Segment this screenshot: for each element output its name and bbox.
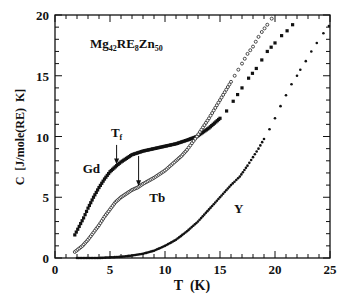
data-point (291, 23, 294, 26)
data-point (257, 35, 260, 38)
data-point (249, 49, 252, 52)
data-point (83, 213, 86, 216)
data-point (261, 141, 264, 144)
data-point (274, 117, 277, 120)
data-point (78, 225, 81, 228)
plot-axes: 051015202505101520 (36, 8, 337, 277)
data-point (232, 100, 235, 103)
data-point (218, 117, 221, 120)
data-point (246, 52, 249, 55)
y-axis-label: C [J/mole(RE) K] (13, 89, 27, 186)
data-point (322, 32, 325, 35)
data-point (82, 216, 85, 219)
y-tick-label: 20 (36, 8, 49, 23)
data-point (290, 83, 293, 86)
data-point (316, 42, 319, 45)
compound-title: Mg42RE8Zn50 (90, 36, 163, 53)
data-point (260, 58, 263, 61)
series-tb (73, 17, 273, 253)
data-point (268, 128, 271, 131)
data-point (280, 34, 283, 37)
series-y (76, 25, 331, 260)
data-point (259, 144, 262, 147)
chart: 051015202505101520 GdTbYTf Mg42RE8Zn50 T… (0, 0, 342, 304)
curve-label-tb: Tb (149, 190, 165, 205)
data-point (237, 68, 240, 71)
x-tick-label: 10 (159, 262, 172, 277)
curve-label-gd: Gd (83, 161, 101, 176)
x-tick-label: 0 (52, 262, 59, 277)
data-point (89, 201, 92, 204)
data-point (270, 46, 273, 49)
data-point (243, 169, 246, 172)
data-point (279, 105, 282, 108)
y-tick-label: 10 (36, 130, 49, 145)
y-tick-label: 15 (36, 69, 50, 84)
data-point (257, 147, 260, 150)
data-point (85, 210, 88, 213)
series-gd (73, 23, 294, 236)
data-point (241, 62, 244, 65)
data-point (285, 94, 288, 97)
data-point (245, 167, 248, 170)
data-point (296, 74, 299, 77)
y-tick-label: 0 (43, 251, 50, 266)
data-point (255, 150, 258, 153)
data-point (252, 156, 255, 159)
data-point (310, 50, 313, 53)
data-point (88, 204, 91, 207)
data-point (286, 29, 289, 32)
data-point (230, 80, 233, 83)
data-point (252, 45, 255, 48)
data-point (255, 67, 258, 70)
data-point (254, 153, 257, 156)
data-point (76, 228, 79, 231)
data-point (305, 60, 308, 63)
data-point (79, 222, 82, 225)
data-point (263, 27, 266, 30)
data-point (225, 109, 228, 112)
data-point (240, 173, 243, 176)
x-axis-label: T (K) (174, 278, 211, 294)
data-point (86, 207, 89, 210)
data-point (247, 77, 250, 80)
data-point (239, 175, 242, 178)
data-point (233, 74, 236, 77)
data-point (273, 41, 276, 44)
data-point (299, 68, 302, 71)
data-point (270, 17, 273, 20)
data-point (328, 25, 331, 28)
data-point (81, 219, 84, 222)
x-tick-label: 5 (107, 262, 114, 277)
data-point (242, 171, 245, 174)
data-point (73, 233, 76, 236)
x-tick-label: 25 (324, 262, 338, 277)
data-point (250, 159, 253, 162)
data-point (251, 72, 254, 75)
data-point (266, 50, 269, 53)
tf-label: Tf (111, 125, 123, 142)
data-point (240, 86, 243, 89)
y-tick-label: 5 (43, 190, 50, 205)
x-tick-label: 20 (269, 262, 282, 277)
data-point (246, 164, 249, 167)
data-point (263, 138, 266, 141)
data-point (75, 230, 78, 233)
data-point (91, 198, 94, 201)
data-point (266, 23, 269, 26)
data-point (260, 31, 263, 34)
data-point (254, 40, 257, 43)
data-point (243, 57, 246, 60)
x-tick-label: 15 (214, 262, 228, 277)
data-point (236, 93, 239, 96)
data-point (248, 162, 251, 165)
curve-label-y: Y (234, 201, 244, 216)
